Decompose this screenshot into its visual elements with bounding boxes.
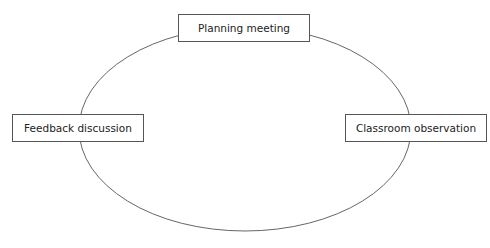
node-label: Classroom observation: [356, 122, 476, 134]
node-classroom-observation: Classroom observation: [345, 114, 487, 142]
node-label: Planning meeting: [198, 22, 290, 34]
node-planning-meeting: Planning meeting: [178, 14, 310, 42]
node-label: Feedback discussion: [24, 122, 132, 134]
node-feedback-discussion: Feedback discussion: [12, 114, 144, 142]
